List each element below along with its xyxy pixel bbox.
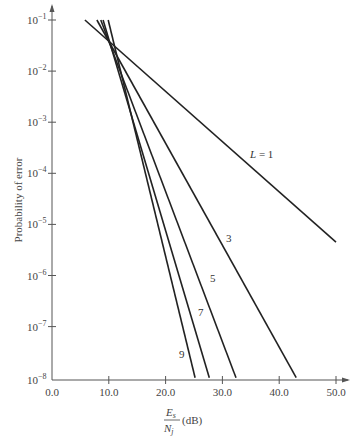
x-tick-label: 50.0 [326,386,346,398]
x-tick-label: 20.0 [156,386,176,398]
y-tick-label: 10−1 [27,12,47,26]
y-tick-label: 10−8 [27,372,47,386]
y-axis-arrow-icon [50,4,55,12]
x-label-denominator: Nj [163,422,174,436]
y-tick-label: 10−3 [27,114,47,128]
probability-of-error-chart: 10−110−210−310−410−510−610−710−8 0.010.0… [0,0,358,438]
x-axis-ticks: 0.010.020.030.040.050.0 [45,376,346,398]
x-tick-label: 10.0 [99,386,119,398]
curve-labels: L = 13579 [179,148,273,360]
curve-l3 [97,20,296,378]
x-label-numerator: Es [165,406,176,420]
curve-l7 [103,20,209,378]
x-tick-label: 40.0 [270,386,290,398]
x-axis-label: Es Nj (dB) [163,406,203,436]
curve-l9 [108,20,195,378]
y-tick-label: 10−6 [27,268,47,282]
x-axis-arrow-icon [342,378,350,383]
y-axis-label: Probability of error [12,157,24,242]
x-tick-label: 30.0 [213,386,233,398]
curve-label: 7 [198,306,204,318]
x-label-unit: (dB) [182,414,203,427]
x-tick-label: 0.0 [45,386,59,398]
y-tick-label: 10−5 [27,216,47,230]
curves [85,20,336,378]
curve-label: 9 [179,348,185,360]
axes [50,4,351,383]
y-tick-label: 10−4 [27,165,47,179]
curve-label: L = 1 [249,148,273,160]
curve-label: 3 [226,232,232,244]
y-tick-label: 10−2 [27,63,47,77]
curve-l1 [85,20,336,242]
y-tick-label: 10−7 [27,319,47,333]
curve-label: 5 [210,272,216,284]
